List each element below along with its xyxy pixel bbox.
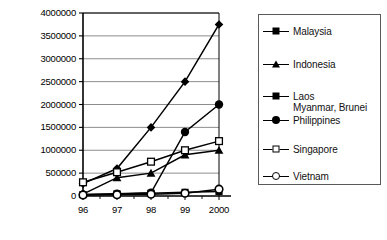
data-point-marker	[181, 189, 189, 197]
legend-item-label: Malaysia	[293, 26, 332, 37]
legend-item-label: Vietnam	[293, 171, 329, 182]
x-axis-tick-label: 2000	[199, 204, 239, 215]
data-point-marker	[215, 100, 223, 108]
chart-legend: MalaysiaIndonesiaLaosMyanmar, BruneiPhil…	[258, 14, 381, 185]
y-axis-tick-label: 2500000	[40, 76, 76, 87]
data-point-marker	[147, 190, 155, 198]
data-point-marker	[182, 147, 189, 154]
line-chart: 0500000100000015000002000000250000030000…	[0, 0, 387, 240]
data-point-marker	[148, 158, 155, 165]
y-axis-tick-label: 1000000	[40, 144, 76, 155]
y-axis-tick-label: 1500000	[40, 121, 76, 132]
data-point-marker	[80, 179, 87, 186]
data-point-marker	[215, 185, 223, 193]
y-axis-tick-label: 0	[71, 190, 76, 201]
legend-item-label: Indonesia	[293, 59, 335, 70]
legend-item-label: Singapore	[293, 144, 338, 155]
y-axis-tick-label: 3500000	[40, 30, 76, 41]
legend-item-sublabel: Myanmar, Brunei	[293, 102, 367, 113]
y-axis-tick-label: 2000000	[40, 99, 76, 110]
legend-item-label: Philippines	[293, 115, 340, 126]
triangle-icon	[263, 59, 289, 70]
data-point-marker	[181, 128, 189, 136]
circle-icon	[263, 115, 289, 126]
legend-item[interactable]: Philippines	[263, 114, 340, 126]
y-axis-tick-label: 500000	[45, 167, 76, 178]
open-square-icon	[263, 144, 289, 155]
legend-item-label: Laos	[293, 91, 314, 102]
data-point-marker	[79, 191, 87, 199]
y-axis-tick-label: 4000000	[40, 7, 76, 18]
data-point-marker	[113, 191, 121, 199]
legend-item[interactable]: Indonesia	[263, 58, 335, 70]
open-circle-icon	[263, 171, 289, 182]
data-point-marker	[216, 138, 223, 145]
legend-item[interactable]: Laos	[263, 90, 314, 102]
legend-item[interactable]: Malaysia	[263, 25, 332, 37]
legend-item[interactable]: Vietnam	[263, 170, 329, 182]
legend-item[interactable]: Singapore	[263, 143, 338, 155]
diamond-icon	[263, 26, 289, 37]
y-axis-tick-label: 3000000	[40, 53, 76, 64]
square-icon	[263, 91, 289, 102]
data-point-marker	[114, 169, 121, 176]
